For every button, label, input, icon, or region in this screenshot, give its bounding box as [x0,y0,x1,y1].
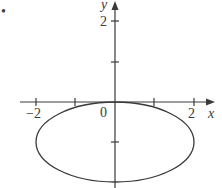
x-axis-arrow-icon [206,99,215,106]
x-axis-label: x [207,106,215,121]
x-tick-label-pos2: 2 [188,106,195,121]
y-axis-arrow-icon [112,1,119,10]
bullet-marker: • [1,4,6,19]
origin-label: 0 [100,105,107,120]
ellipse-diagram: • −2 0 2 x 2 y [0,0,222,188]
y-tick-label-pos2: 2 [100,14,107,29]
x-tick-label-neg2: −2 [26,106,41,121]
y-axis-label: y [99,0,108,12]
